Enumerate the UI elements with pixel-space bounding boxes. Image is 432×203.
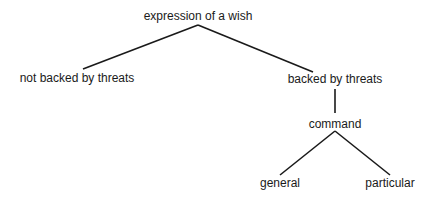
edge-command-particular: [335, 131, 390, 175]
node-command: command: [309, 117, 362, 131]
node-particular: particular: [365, 176, 414, 190]
node-backed-by-threats: backed by threats: [288, 72, 383, 86]
tree-diagram: expression of a wish not backed by threa…: [0, 0, 432, 203]
edge-root-backed: [198, 25, 313, 72]
node-expression-of-a-wish: expression of a wish: [144, 9, 253, 23]
edge-root-not-backed: [83, 25, 198, 69]
tree-edges: [0, 0, 432, 203]
node-general: general: [260, 176, 300, 190]
node-not-backed-by-threats: not backed by threats: [20, 71, 135, 85]
edge-command-general: [280, 131, 335, 175]
